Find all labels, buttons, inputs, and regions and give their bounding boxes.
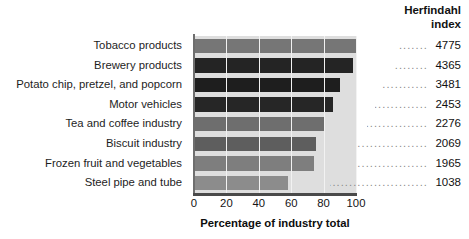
herfindahl-value: 3481 xyxy=(427,75,461,95)
category-label: Frozen fruit and vegetables xyxy=(0,154,188,174)
x-axis-line xyxy=(193,193,357,196)
herfindahl-value: 2276 xyxy=(427,114,461,134)
herfindahl-value: 2069 xyxy=(427,134,461,154)
category-label: Potato chip, pretzel, and popcorn xyxy=(0,75,188,95)
category-label: Biscuit industry xyxy=(0,134,188,154)
leader-dots: ........................................… xyxy=(375,95,428,115)
category-label: Tea and coffee industry xyxy=(0,114,188,134)
herfindahl-value: 4775 xyxy=(427,36,461,56)
value-row: ........................................… xyxy=(356,36,469,56)
category-label: Motor vehicles xyxy=(0,95,188,115)
value-column-header-line2: index xyxy=(349,18,461,32)
x-tick-label: 20 xyxy=(220,197,233,209)
x-tick-label: 80 xyxy=(317,197,330,209)
category-label: Brewery products xyxy=(0,56,188,76)
leader-dots: ........................................… xyxy=(367,114,428,134)
herfindahl-value: 1038 xyxy=(427,173,461,193)
gridline xyxy=(259,36,260,193)
herfindahl-bar-chart: Herfindahl index Tobacco productsBrewery… xyxy=(0,0,469,239)
bar xyxy=(194,58,353,72)
category-axis-labels: Tobacco productsBrewery productsPotato c… xyxy=(0,36,188,193)
bar-row xyxy=(194,134,356,154)
x-tick-label: 60 xyxy=(285,197,298,209)
leader-dots: ........................................… xyxy=(395,56,428,76)
bar xyxy=(194,78,340,92)
bar-row xyxy=(194,154,356,174)
herfindahl-value: 4365 xyxy=(427,56,461,76)
value-row: ........................................… xyxy=(356,56,469,76)
bar-row xyxy=(194,95,356,115)
plot-area xyxy=(194,36,356,193)
x-tick-label: 40 xyxy=(253,197,266,209)
leader-dots: ........................................… xyxy=(382,75,428,95)
bar xyxy=(194,156,314,170)
x-tick-label: 100 xyxy=(347,197,366,209)
bar-row xyxy=(194,36,356,56)
bar-rows xyxy=(194,36,356,193)
value-row: ........................................… xyxy=(356,114,469,134)
leader-dots: ........................................… xyxy=(356,154,428,174)
x-axis-tick-labels: 020406080100 xyxy=(194,197,356,212)
value-row: ........................................… xyxy=(356,75,469,95)
leader-dots: ........................................… xyxy=(330,173,428,193)
bar xyxy=(194,97,333,111)
bar xyxy=(194,176,288,190)
bar xyxy=(194,137,316,151)
bar xyxy=(194,39,356,53)
value-row: ........................................… xyxy=(356,95,469,115)
category-label: Steel pipe and tube xyxy=(0,173,188,193)
gridline xyxy=(291,36,292,193)
value-column-header: Herfindahl index xyxy=(349,4,461,31)
x-tick-label: 0 xyxy=(191,197,197,209)
bar-row xyxy=(194,56,356,76)
gridline xyxy=(226,36,227,193)
value-row: ........................................… xyxy=(356,134,469,154)
bar-row xyxy=(194,75,356,95)
value-row: ........................................… xyxy=(356,154,469,174)
herfindahl-value: 2453 xyxy=(427,95,461,115)
leader-dots: ........................................… xyxy=(398,36,428,56)
value-column: ........................................… xyxy=(356,36,469,193)
x-axis-title: Percentage of industry total xyxy=(194,217,356,229)
herfindahl-value: 1965 xyxy=(427,154,461,174)
value-row: ........................................… xyxy=(356,173,469,193)
gridline xyxy=(324,36,325,193)
category-label: Tobacco products xyxy=(0,36,188,56)
leader-dots: ........................................… xyxy=(357,134,428,154)
bar-row xyxy=(194,114,356,134)
value-column-header-line1: Herfindahl xyxy=(349,4,461,18)
y-axis-line xyxy=(193,34,195,195)
